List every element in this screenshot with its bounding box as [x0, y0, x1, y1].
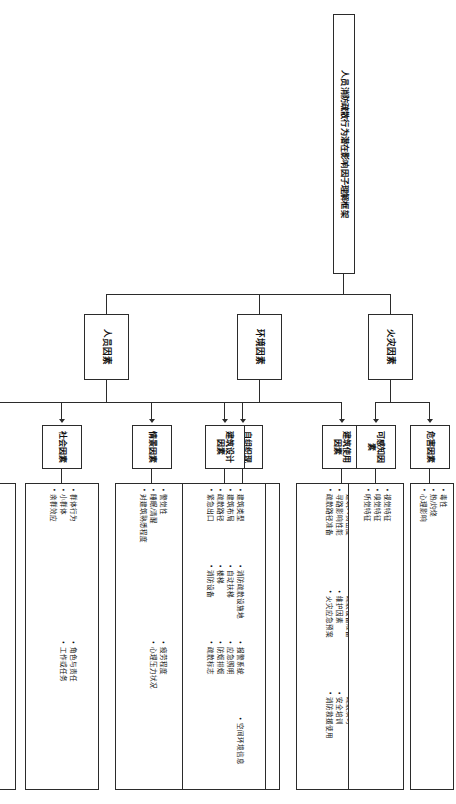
leaf-item: 心理影响 [417, 488, 427, 785]
leafbox-perceivable: 视觉特征 嗅觉特征 听觉特征 [348, 483, 404, 790]
leaf-list-hazard: 毒性 热/灼烧 心理影响 [417, 488, 447, 785]
lvl3-node-perceivable: 可感知因素 [356, 425, 396, 469]
env-child-arrow-1 [339, 419, 345, 423]
leaf-item: 嗅觉特征 [371, 488, 381, 785]
leaf-item: 报警系统 [234, 641, 244, 709]
leaf-list-social: 群体行为 小群体 亲群效应 角色与责任 工作或任务 [47, 488, 77, 785]
fire-child-line-0 [375, 402, 376, 420]
lvl3-node-scenario: 情景因素 [132, 425, 172, 469]
leaf-item: 毒性 [437, 488, 447, 785]
leaf-item: 群体行为 [67, 488, 77, 633]
people-child-arrow-3 [240, 419, 246, 423]
people-child-line-2 [151, 402, 152, 420]
leaf-item: 角色与责任 [67, 641, 77, 786]
lvl3-node-social: 社会因素 [42, 425, 82, 469]
leaf-item: 应急照明 [224, 641, 234, 709]
env-child-arrow-0 [222, 419, 228, 423]
diagram-tree: 人员消防疏散行为潜在影响因子理解框架 人员因素 个体因素 社会因素 情景因素 自… [0, 0, 456, 804]
lvl3-node-hazard: 危害因素 [410, 425, 450, 469]
env-child-line-1 [341, 402, 342, 420]
leaf-item: 消防疏散设施地 [234, 564, 244, 632]
fire-child-arrow-0 [373, 419, 379, 423]
leaf-item: 自动扶梯 [224, 564, 234, 632]
leafbox-scenario: 警觉性 睡眠/清醒 对建筑熟悉程度 疲劳程度 心理压力状况 [115, 483, 189, 790]
lvl2-fire-line [390, 294, 391, 314]
lvl2-people-line [106, 294, 107, 314]
people-child-line-3 [242, 402, 243, 420]
lvl3-node-building-design: 建筑设计因素 [205, 425, 245, 469]
leaf-item: 维护因素 [333, 590, 343, 684]
leaf-item: 火灾应急预案 [323, 590, 333, 684]
leaf-item: 工作或任务 [57, 641, 67, 786]
leaf-item: 空间环境信息 [234, 717, 244, 785]
leaf-item: 疏散标志 [204, 641, 214, 709]
env-branch-spine [224, 402, 342, 403]
leaf-item: 热/灼烧 [427, 488, 437, 785]
fire-child-line-1 [429, 402, 430, 420]
diagram-canvas: 人员消防疏散行为潜在影响因子理解框架 人员因素 个体因素 社会因素 情景因素 自… [0, 0, 456, 804]
leaf-item: 建筑布局 [224, 488, 234, 556]
leaf-item: 睡眠/清醒 [147, 488, 157, 633]
leaf-list-perceivable: 视觉特征 嗅觉特征 听觉特征 [361, 488, 391, 785]
leaf-item: 警觉性 [157, 488, 167, 633]
lvl2-env-line [259, 294, 260, 314]
leaf-item: 防烟排烟 [214, 641, 224, 709]
fire-child-arrow-1 [427, 419, 433, 423]
leaf-item: 疏散路径 [214, 488, 224, 556]
leaf-line-selforg [242, 469, 243, 483]
people-child-arrow-2 [149, 419, 155, 423]
people-branch-spine [0, 402, 243, 403]
people-branch-stem [106, 380, 107, 402]
leaf-item: 消防救援使用 [323, 691, 333, 785]
leaf-item: 楼梯 [214, 564, 224, 632]
leaf-line-building-use [341, 469, 342, 483]
fire-branch-stem [390, 380, 391, 402]
lvl2-node-fire: 火灾因素 [368, 314, 413, 380]
leaf-list-building-design: 建筑类型 建筑布局 疏散路径 紧急出口 消防疏散设施地 自动扶梯 楼梯 消防设备… [204, 488, 244, 785]
leafbox-social: 群体行为 小群体 亲群效应 角色与责任 工作或任务 [25, 483, 99, 790]
env-child-line-0 [224, 402, 225, 420]
leaf-item: 小群体 [57, 488, 67, 633]
people-child-arrow-1 [59, 419, 65, 423]
leaf-item: 紧急出口 [204, 488, 214, 556]
leafbox-building-design: 建筑类型 建筑布局 疏散路径 紧急出口 消防疏散设施地 自动扶梯 楼梯 消防设备… [182, 483, 266, 790]
leaf-item: 建筑类型 [234, 488, 244, 556]
leaf-item: 安全培训 [333, 691, 343, 785]
root-trunk-line [107, 294, 391, 295]
leaf-item: 疏散路径准备 [323, 488, 333, 582]
leaf-item: 心理压力状况 [147, 641, 157, 786]
leaf-line-social [61, 469, 62, 483]
root-stub-line [343, 274, 344, 294]
leaf-line-perceivable [375, 469, 376, 483]
leafbox-individual: 性别 年龄 专业背景 性格 领导者/追随者 抗压水平 行动能力 健康状况 体育素… [0, 483, 16, 790]
leaf-line-scenario [151, 469, 152, 483]
fire-branch-spine [375, 402, 430, 403]
leaf-item: 消防设备 [204, 564, 214, 632]
env-branch-stem [259, 380, 260, 402]
leaf-line-hazard [429, 469, 430, 483]
leaf-item: 寻路影响性能 [333, 488, 343, 582]
leaf-item: 视觉特征 [381, 488, 391, 785]
leaf-item: 对建筑熟悉程度 [137, 488, 147, 633]
root-node: 人员消防疏散行为潜在影响因子理解框架 [333, 14, 355, 274]
people-child-line-1 [61, 402, 62, 420]
leaf-line-building-design [224, 469, 225, 483]
leaf-item: 听觉特征 [361, 488, 371, 785]
lvl2-node-environment: 环境因素 [237, 314, 282, 380]
lvl2-node-people: 人员因素 [84, 314, 129, 380]
leaf-item: 亲群效应 [47, 488, 57, 633]
leafbox-hazard: 毒性 热/灼烧 心理影响 [410, 483, 454, 790]
leaf-item: 疲劳程度 [157, 641, 167, 786]
leaf-list-scenario: 警觉性 睡眠/清醒 对建筑熟悉程度 疲劳程度 心理压力状况 [137, 488, 167, 785]
